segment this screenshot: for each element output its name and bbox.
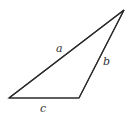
side-a-label: a <box>56 42 63 55</box>
side-c-label: c <box>40 102 46 115</box>
side-b-label: b <box>103 55 110 68</box>
triangle-diagram: a b c <box>0 0 132 115</box>
side-a <box>9 10 124 98</box>
side-b <box>79 10 124 98</box>
